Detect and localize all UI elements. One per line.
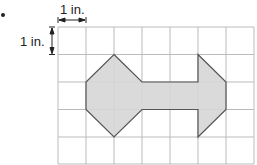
shaded-shape <box>86 55 226 138</box>
horizontal-scale-arrow <box>58 17 86 23</box>
grid-figure <box>0 0 257 165</box>
vertical-scale-arrow <box>49 27 55 55</box>
